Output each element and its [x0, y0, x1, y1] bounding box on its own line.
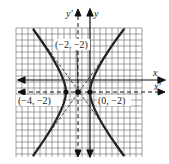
vertex-left-label: (−4, −2): [18, 95, 51, 107]
hyperbola-graph: (−2, −2) (−4, −2) (0, −2) x x′ y y′: [0, 0, 169, 164]
vertex-right-label: (0, −2): [98, 95, 125, 107]
center-leader-line: [77, 50, 78, 88]
vertex-right-point: [87, 89, 92, 94]
center-label: (−2, −2): [55, 39, 88, 51]
vertex-left-point: [63, 89, 68, 94]
x-axis-label: x: [152, 67, 158, 78]
y-axis-label: y: [93, 8, 99, 19]
y-axis-arrow-icon: [87, 9, 93, 16]
y-prime-axis-label: y′: [65, 8, 73, 19]
center-point: [75, 89, 81, 95]
x-prime-axis-label: x′: [153, 81, 161, 92]
